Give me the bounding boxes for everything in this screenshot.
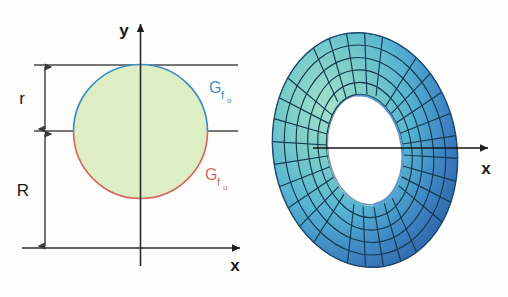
upper-curve-label: G f o <box>209 79 232 105</box>
figure-root: r R y x G f o G f u <box>0 0 508 297</box>
upper-curve-label-sub: f <box>221 89 225 101</box>
torus-x-axis-label: x <box>481 159 491 178</box>
lower-curve-label-sub: f <box>217 176 221 188</box>
torus-3d: x <box>256 19 492 281</box>
x-axis-label: x <box>230 256 240 275</box>
dimension-label-r: r <box>19 89 25 108</box>
figure-svg: r R y x G f o G f u <box>0 0 508 297</box>
cross-section-diagram: r R y x G f o G f u <box>17 21 240 275</box>
upper-curve-label-sub2: o <box>227 96 232 105</box>
lower-curve-label: G f u <box>205 166 227 192</box>
dimension-label-R: R <box>17 181 29 200</box>
y-axis-label: y <box>119 21 129 40</box>
lower-curve-label-sub2: u <box>223 183 227 192</box>
lower-curve-label-main: G <box>205 166 217 183</box>
upper-curve-label-main: G <box>209 79 221 96</box>
